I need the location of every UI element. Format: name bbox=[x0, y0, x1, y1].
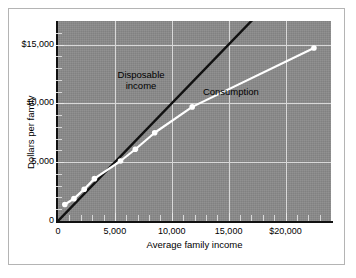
x-axis-tick bbox=[263, 215, 264, 221]
x-axis-tick bbox=[81, 215, 82, 221]
y-axis-tick bbox=[56, 209, 62, 210]
y-axis-title: Dollars per family bbox=[25, 96, 36, 169]
figure-frame: Disposable income Consumption 05,00010,0… bbox=[8, 8, 345, 265]
y-axis-tick bbox=[56, 68, 62, 69]
x-axis-tick bbox=[297, 215, 298, 221]
series-layer bbox=[58, 21, 331, 221]
x-axis-tick bbox=[229, 213, 230, 221]
plot-area: Disposable income Consumption bbox=[58, 21, 331, 221]
x-axis-tick bbox=[172, 213, 173, 221]
y-axis-tick bbox=[56, 33, 62, 34]
y-axis-tick bbox=[56, 197, 62, 198]
x-tick-label: 15,000 bbox=[215, 226, 243, 236]
x-axis-tick bbox=[104, 215, 105, 221]
y-axis-tick bbox=[56, 139, 62, 140]
x-axis-tick bbox=[183, 215, 184, 221]
y-axis-tick bbox=[56, 150, 62, 151]
annotation-disposable-income: Disposable income bbox=[118, 69, 165, 91]
x-axis-tick bbox=[92, 215, 93, 221]
x-axis-tick bbox=[308, 215, 309, 221]
y-axis-tick bbox=[56, 80, 62, 81]
x-axis-tick bbox=[160, 215, 161, 221]
data-point-marker bbox=[189, 104, 195, 110]
x-tick-label: 0 bbox=[55, 226, 60, 236]
x-axis-tick bbox=[320, 215, 321, 221]
x-axis-tick bbox=[286, 213, 287, 221]
x-tick-label: $20,000 bbox=[269, 226, 302, 236]
x-tick-label: 5,000 bbox=[104, 226, 127, 236]
x-axis-tick bbox=[274, 215, 275, 221]
y-axis-tick bbox=[56, 162, 64, 163]
x-axis-tick bbox=[115, 213, 116, 221]
data-point-marker bbox=[152, 130, 158, 136]
series-line-consumption bbox=[65, 48, 314, 204]
y-axis-tick bbox=[56, 45, 64, 46]
x-axis-tick bbox=[217, 215, 218, 221]
x-axis-title: Average family income bbox=[58, 239, 331, 250]
data-point-marker bbox=[118, 158, 124, 164]
annotation-consumption-line1: Consumption bbox=[203, 86, 259, 97]
data-point-marker bbox=[62, 202, 68, 208]
y-axis-tick bbox=[56, 56, 62, 57]
x-axis-tick bbox=[206, 215, 207, 221]
y-tick-label: $15,000 bbox=[21, 39, 54, 49]
x-axis-tick bbox=[126, 215, 127, 221]
data-point-marker bbox=[92, 176, 98, 182]
x-axis-tick bbox=[69, 215, 70, 221]
x-axis-tick bbox=[138, 215, 139, 221]
data-point-marker bbox=[81, 186, 87, 192]
y-axis-tick bbox=[56, 174, 62, 175]
x-axis-tick bbox=[240, 215, 241, 221]
y-axis-tick bbox=[56, 103, 64, 104]
x-axis-tick bbox=[251, 215, 252, 221]
data-point-marker bbox=[311, 45, 317, 51]
y-axis-tick bbox=[56, 92, 62, 93]
y-axis-line bbox=[56, 21, 58, 223]
x-axis-tick bbox=[149, 215, 150, 221]
data-point-marker bbox=[133, 146, 139, 152]
x-axis-line bbox=[56, 221, 333, 223]
annotation-consumption: Consumption bbox=[203, 86, 259, 97]
x-axis-tick bbox=[195, 215, 196, 221]
annotation-disposable-line2: income bbox=[126, 80, 157, 91]
y-axis-tick bbox=[56, 127, 62, 128]
series-line-disposable-income bbox=[58, 21, 260, 221]
data-point-marker bbox=[71, 196, 77, 202]
y-tick-label: 0 bbox=[49, 215, 54, 225]
y-axis-tick bbox=[56, 115, 62, 116]
y-axis-tick bbox=[56, 186, 62, 187]
annotation-disposable-line1: Disposable bbox=[118, 69, 165, 80]
x-tick-label: 10,000 bbox=[158, 226, 186, 236]
